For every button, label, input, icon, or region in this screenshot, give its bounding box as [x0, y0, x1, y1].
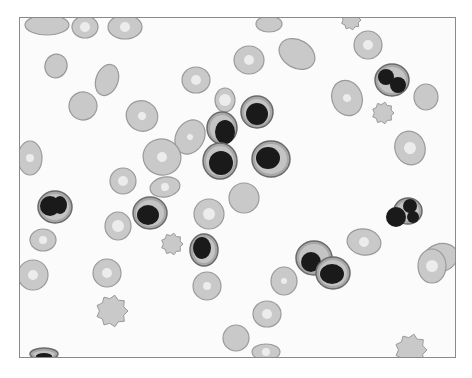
nucleus	[209, 151, 233, 175]
blood-smear-micrograph	[0, 0, 472, 378]
nucleated-cell	[375, 64, 409, 96]
nucleated-cell	[252, 141, 290, 177]
red-blood-cell	[229, 183, 259, 213]
red-blood-cell	[215, 88, 235, 112]
red-blood-cell	[148, 175, 181, 200]
red-blood-cell	[194, 199, 224, 229]
red-blood-cell	[121, 95, 164, 137]
red-blood-cell	[64, 87, 102, 125]
echinocyte	[162, 233, 183, 255]
red-blood-cell	[274, 32, 321, 75]
echinocyte	[396, 334, 427, 366]
red-blood-cell	[110, 168, 136, 194]
nucleus	[256, 147, 280, 169]
nucleated-cell	[38, 191, 72, 223]
cell-layer	[0, 0, 472, 378]
nucleated-cell	[207, 112, 237, 144]
nucleated-cell	[190, 234, 218, 266]
red-blood-cell	[271, 267, 297, 295]
red-blood-cell	[252, 344, 280, 360]
red-blood-cell	[193, 272, 221, 300]
red-blood-cell	[93, 259, 121, 287]
red-blood-cell	[72, 16, 98, 38]
red-blood-cell	[18, 260, 48, 290]
red-blood-cell	[418, 249, 446, 283]
nucleus	[403, 199, 417, 213]
red-blood-cell	[18, 141, 42, 175]
red-blood-cell	[108, 15, 142, 39]
red-blood-cell	[223, 325, 249, 351]
nucleus	[193, 237, 211, 259]
nucleated-cell	[30, 348, 58, 360]
red-blood-cell	[91, 61, 123, 99]
nucleated-cell	[241, 96, 273, 128]
red-blood-cell	[253, 301, 281, 327]
nucleated-cell	[203, 143, 237, 179]
nucleus	[53, 196, 67, 214]
nucleus	[36, 353, 52, 359]
red-blood-cell	[256, 16, 282, 32]
echinocyte	[342, 10, 361, 30]
nucleus	[215, 120, 235, 144]
red-blood-cell	[105, 212, 131, 240]
red-blood-cell	[30, 229, 56, 251]
nucleated-cell	[386, 198, 422, 227]
red-blood-cell	[390, 127, 430, 169]
nucleus	[386, 207, 406, 227]
red-blood-cell	[327, 76, 368, 120]
red-blood-cell	[25, 15, 69, 35]
nucleated-cell	[133, 197, 167, 229]
nucleus	[390, 77, 406, 93]
red-blood-cell	[354, 31, 382, 59]
red-blood-cell	[42, 51, 71, 81]
echinocyte	[373, 102, 394, 124]
nucleus	[320, 264, 344, 284]
nucleated-cell	[316, 257, 350, 289]
red-blood-cell	[182, 67, 210, 93]
red-blood-cell	[414, 84, 438, 110]
red-blood-cell	[234, 46, 264, 74]
nucleus	[407, 211, 419, 223]
echinocyte	[97, 295, 128, 327]
nucleus	[246, 103, 268, 125]
red-blood-cell	[345, 226, 383, 258]
nucleus	[137, 205, 159, 225]
